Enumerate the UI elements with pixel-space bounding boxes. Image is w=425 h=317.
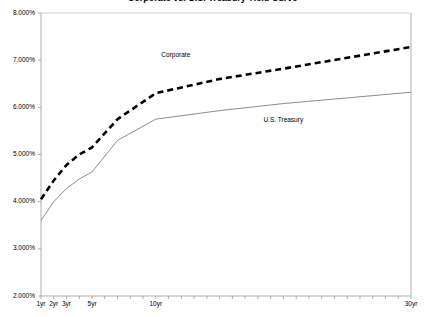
series-label-1: U.S. Treasury [263, 116, 303, 123]
data-series-group [41, 47, 411, 221]
series-label-0: Corporate [161, 51, 190, 58]
x-tick-label: 10yr [136, 300, 176, 307]
plot-area [0, 0, 425, 317]
x-axis-ticks [41, 296, 411, 299]
y-tick-label: 7.000% [1, 56, 35, 63]
y-tick-label: 5.000% [1, 150, 35, 157]
y-axis-ticks [38, 13, 41, 296]
y-tick-label: 4.000% [1, 197, 35, 204]
y-tick-label: 8.000% [1, 9, 35, 16]
x-tick-label: 30yr [391, 300, 425, 307]
y-tick-label: 2.000% [1, 292, 35, 299]
y-tick-label: 6.000% [1, 103, 35, 110]
series-line-1 [41, 92, 411, 220]
y-tick-label: 3.000% [1, 244, 35, 251]
series-line-0 [41, 47, 411, 199]
x-tick-label: 5yr [72, 300, 112, 307]
yield-curve-chart: Corporate vs. U.S. Treasury Yield Curve … [0, 0, 425, 317]
